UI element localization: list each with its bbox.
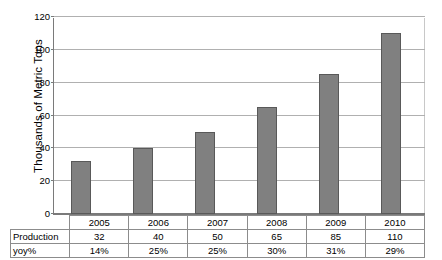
table-header-2007: 2007 (188, 216, 247, 230)
data-table: 200520062007200820092010Production324050… (10, 215, 425, 258)
bar-2007 (195, 132, 215, 214)
table-header-2009: 2009 (306, 216, 365, 230)
table-cell-1-5: 29% (365, 244, 424, 258)
bar-2008 (257, 107, 277, 214)
bar-2005 (71, 161, 91, 214)
plot-right-border (424, 18, 425, 214)
y-tick-mark-100 (51, 49, 54, 50)
y-tick-label-20: 20 (39, 175, 50, 186)
y-tick-mark-80 (51, 82, 54, 83)
table-header-2005: 2005 (70, 216, 129, 230)
table-header-row: 200520062007200820092010 (11, 216, 425, 230)
gridline-120: 120 (54, 16, 425, 17)
table-cell-1-3: 30% (247, 244, 306, 258)
bar-2010 (381, 33, 401, 214)
bar-2009 (319, 74, 339, 214)
table-cell-0-1: 40 (129, 230, 188, 244)
table-cell-1-0: 14% (70, 244, 129, 258)
gridline-100: 100 (54, 49, 425, 50)
y-tick-label-80: 80 (39, 76, 50, 87)
y-tick-label-40: 40 (39, 142, 50, 153)
gridline-20: 20 (54, 180, 425, 181)
y-tick-label-60: 60 (39, 109, 50, 120)
gridline-40: 40 (54, 147, 425, 148)
table-header-2006: 2006 (129, 216, 188, 230)
gridline-60: 60 (54, 115, 425, 116)
y-tick-mark-20 (51, 180, 54, 181)
table-cell-0-4: 85 (306, 230, 365, 244)
y-tick-label-100: 100 (34, 43, 50, 54)
plot-area: 020406080100120 (53, 18, 425, 215)
table-cell-1-1: 25% (129, 244, 188, 258)
table-cell-0-2: 50 (188, 230, 247, 244)
table-cell-1-4: 31% (306, 244, 365, 258)
table-header-2010: 2010 (365, 216, 424, 230)
table-cell-0-5: 110 (365, 230, 424, 244)
gridline-0: 0 (54, 213, 425, 214)
y-tick-mark-0 (51, 213, 54, 214)
bar-2006 (133, 148, 153, 214)
y-tick-mark-60 (51, 115, 54, 116)
y-tick-label-120: 120 (34, 11, 50, 22)
table-row-label-1: yoy% (11, 244, 70, 258)
table-corner-blank (11, 216, 70, 230)
table-cell-0-0: 32 (70, 230, 129, 244)
table-cell-1-2: 25% (188, 244, 247, 258)
table-row-label-0: Production (11, 230, 70, 244)
bar-chart: Thousands of Metric Tons 020406080100120… (0, 0, 442, 260)
table-cell-0-3: 65 (247, 230, 306, 244)
y-tick-mark-120 (51, 16, 54, 17)
y-tick-mark-40 (51, 147, 54, 148)
table-row: yoy%14%25%25%30%31%29% (11, 244, 425, 258)
gridline-80: 80 (54, 82, 425, 83)
table-header-2008: 2008 (247, 216, 306, 230)
table-row: Production3240506585110 (11, 230, 425, 244)
